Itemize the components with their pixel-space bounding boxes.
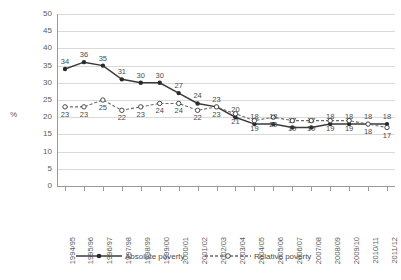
x-axis-tick: [179, 186, 180, 191]
legend-swatch-absolute-icon: [76, 251, 122, 261]
data-label: 17: [383, 132, 391, 140]
x-axis-tick: [103, 186, 104, 191]
data-label: 18: [383, 113, 391, 121]
x-axis-tick: [387, 186, 388, 191]
data-label: 22: [118, 114, 126, 122]
y-axis-tick-label: 35: [6, 62, 52, 70]
x-axis-tick: [160, 186, 161, 191]
data-label: 25: [99, 104, 107, 112]
legend-label-absolute: Absolute poverty: [125, 252, 185, 261]
data-label: 23: [61, 111, 69, 119]
data-label: 24: [156, 107, 164, 115]
poverty-trend-chart: 50454035302520151050 % 34363531303027242…: [0, 0, 401, 280]
y-axis-tick-label: 15: [6, 130, 52, 138]
legend-item-absolute: Absolute poverty: [76, 248, 185, 264]
data-label: 19: [326, 125, 334, 133]
y-axis-tick-label: 40: [6, 44, 52, 52]
x-axis-tick: [141, 186, 142, 191]
data-label: 24: [193, 92, 201, 100]
legend-item-relative: Relative poverty: [205, 248, 311, 264]
data-label: 23: [212, 111, 220, 119]
x-axis-labels: 1994/951995/961996/971997/981998/991999/…: [57, 193, 395, 239]
data-label: 36: [80, 51, 88, 59]
x-axis-tick: [368, 186, 369, 191]
y-axis-tick-label: 0: [6, 182, 52, 190]
y-axis-tick-label: 10: [6, 148, 52, 156]
data-label: 24: [174, 107, 182, 115]
data-label: 20: [269, 121, 277, 129]
chart-legend: Absolute poverty Relative poverty: [0, 248, 401, 272]
data-label: 21: [231, 118, 239, 126]
data-label: 30: [137, 72, 145, 80]
data-label: 23: [137, 111, 145, 119]
x-axis-tick: [198, 186, 199, 191]
y-axis-tick-label: 30: [6, 79, 52, 87]
y-axis-tick-label: 25: [6, 96, 52, 104]
x-axis-tick: [235, 186, 236, 191]
data-label: 18: [326, 113, 334, 121]
x-axis-tick: [349, 186, 350, 191]
x-axis-tick: [330, 186, 331, 191]
data-label: 18: [364, 128, 372, 136]
legend-label-relative: Relative poverty: [254, 252, 311, 261]
data-label: 19: [307, 125, 315, 133]
data-label: 27: [174, 82, 182, 90]
x-axis-tick: [65, 186, 66, 191]
y-axis-tick-label: 45: [6, 27, 52, 35]
data-label: 34: [61, 58, 69, 66]
x-axis-tick: [311, 186, 312, 191]
x-axis-tick: [292, 186, 293, 191]
x-axis-tick: [254, 186, 255, 191]
y-axis-title: %: [10, 110, 17, 119]
x-axis-ticks: [57, 186, 395, 191]
data-label: 20: [231, 106, 239, 114]
data-label: 19: [345, 125, 353, 133]
x-axis-tick: [84, 186, 85, 191]
x-axis-tick: [273, 186, 274, 191]
data-label: 31: [118, 68, 126, 76]
data-label: 19: [250, 125, 258, 133]
data-label: 23: [80, 111, 88, 119]
data-label: 18: [364, 113, 372, 121]
x-axis-tick: [217, 186, 218, 191]
data-label: 23: [212, 96, 220, 104]
data-label-layer: 3436353130302724232018181717181818182323…: [57, 14, 395, 186]
data-label: 35: [99, 55, 107, 63]
data-label: 30: [156, 72, 164, 80]
y-axis: 50454035302520151050: [0, 0, 52, 186]
data-label: 18: [250, 113, 258, 121]
data-label: 19: [288, 125, 296, 133]
x-axis-tick: [122, 186, 123, 191]
data-label: 22: [193, 114, 201, 122]
legend-swatch-relative-icon: [205, 251, 251, 261]
y-axis-tick-label: 5: [6, 165, 52, 173]
y-axis-tick-label: 50: [6, 10, 52, 18]
data-label: 18: [345, 113, 353, 121]
